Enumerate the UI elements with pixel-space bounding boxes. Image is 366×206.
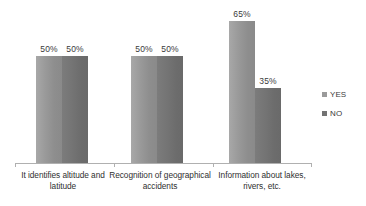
x-axis-tick-1 [114, 163, 115, 167]
legend-item-yes[interactable]: YES [322, 90, 366, 99]
bar-label-no-2: 50% [150, 44, 190, 54]
x-axis-baseline [15, 163, 312, 164]
bar-no-2[interactable]: 50% [157, 56, 183, 163]
bar-yes-1[interactable]: 50% [36, 56, 62, 163]
x-axis-tick-end [311, 163, 312, 167]
category-label-3: Information about lakes, rivers, etc. [207, 170, 317, 192]
x-axis-tick-start [15, 163, 16, 167]
bar-label-no-3: 35% [248, 76, 288, 86]
legend-item-no[interactable]: NO [322, 109, 366, 118]
chart-legend: YES NO [322, 90, 366, 128]
bar-yes-3[interactable]: 65% [229, 21, 255, 163]
x-axis-tick-2 [213, 163, 214, 167]
category-label-1: It identifies altitude and latitude [8, 170, 118, 192]
bar-chart: 50% 50% 50% 50% 65% 35% It identifies al… [0, 0, 366, 206]
legend-swatch-no-icon [322, 111, 327, 116]
bar-label-yes-3: 65% [222, 9, 262, 19]
bar-label-no-1: 50% [55, 44, 95, 54]
legend-swatch-yes-icon [322, 92, 327, 97]
category-label-2: Recognition of geographical accidents [107, 170, 213, 192]
legend-label-no: NO [330, 109, 342, 118]
bar-no-3[interactable]: 35% [255, 88, 281, 163]
legend-label-yes: YES [330, 90, 346, 99]
bar-no-1[interactable]: 50% [62, 56, 88, 163]
bar-yes-2[interactable]: 50% [131, 56, 157, 163]
